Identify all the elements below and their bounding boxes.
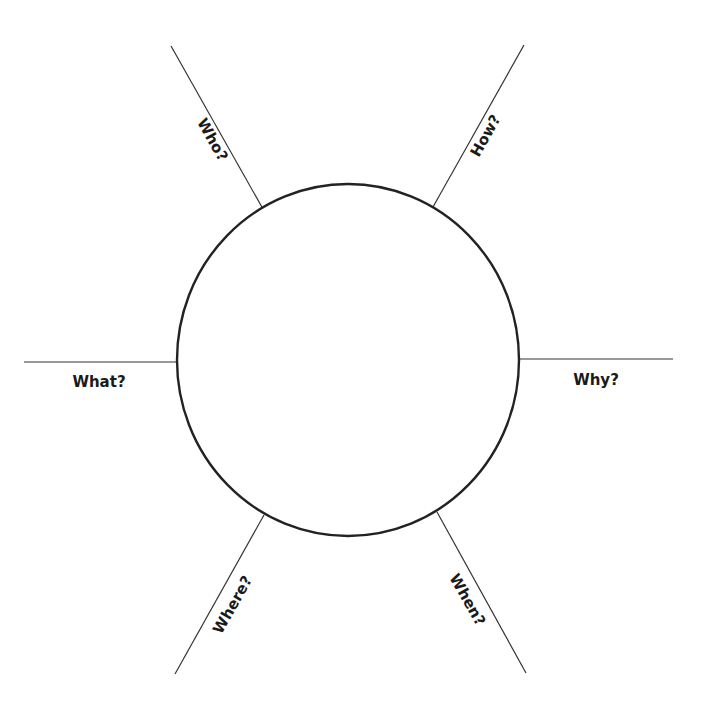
- spoke-line-who: [171, 46, 263, 209]
- spoke-label-how: How?: [467, 112, 505, 160]
- spoke-label-who: Who?: [193, 115, 231, 164]
- spoke-label-when: When?: [446, 571, 490, 629]
- spoke-label-why: Why?: [573, 371, 619, 389]
- spoke-label-where: Where?: [209, 573, 256, 637]
- center-circle: [177, 184, 519, 536]
- spoke-label-what: What?: [72, 373, 125, 391]
- spoke-line-where: [175, 515, 264, 674]
- spoke-line-when: [437, 512, 526, 673]
- spoke-line-how: [433, 45, 524, 207]
- five-w-diagram: Who? How? What? Why? Where? When?: [0, 0, 713, 716]
